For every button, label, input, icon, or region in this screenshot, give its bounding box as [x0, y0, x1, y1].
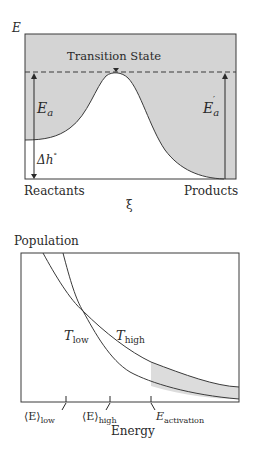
t-high-curve — [43, 253, 239, 387]
reactants-label: Reactants — [24, 184, 85, 198]
products-label: Products — [184, 184, 238, 198]
plot-frame-bottom — [21, 253, 239, 402]
t-low-label: Tlow — [64, 328, 89, 345]
y-axis-label: E — [11, 21, 21, 35]
ea-prime-mark: ′ — [213, 95, 215, 105]
mean-e-low-label: ⟨E⟩low — [24, 410, 55, 425]
mean-e-high-label: ⟨E⟩high — [82, 410, 117, 425]
t-high-label: Thigh — [116, 328, 145, 345]
population-axis-label: Population — [14, 234, 79, 248]
dh-label: Δh° — [36, 152, 57, 167]
energy-axis-label: Energy — [111, 424, 155, 438]
transition-state-label: Transition State — [67, 49, 161, 63]
e-low-tick-icon — [62, 396, 66, 410]
figure: E Transition State Ea Ea ′ Δh° Reactants… — [0, 0, 253, 464]
e-activation-tick-icon — [151, 396, 155, 410]
xi-label: ξ — [126, 198, 133, 212]
e-high-tick-icon — [106, 396, 110, 410]
energy-profile-diagram: E Transition State Ea Ea ′ Δh° Reactants… — [11, 21, 238, 212]
dh-arrowhead-icon — [31, 174, 37, 179]
e-activation-label: Eactivation — [155, 410, 204, 425]
population-diagram: Population Tlow Thigh ⟨E⟩low ⟨E⟩high Eac… — [14, 234, 239, 438]
